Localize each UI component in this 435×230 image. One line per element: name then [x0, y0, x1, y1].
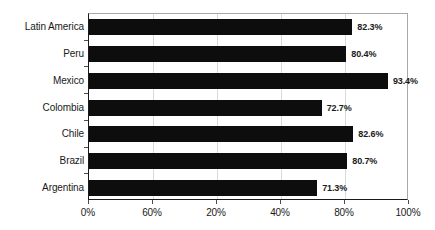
x-axis-label: 80% [334, 207, 354, 218]
bar-row: 80.4% [89, 46, 409, 62]
y-axis-label-peru: Peru [0, 48, 84, 59]
bar-brazil [89, 153, 347, 169]
x-axis-label: 0% [81, 207, 95, 218]
bar-value-label: 82.6% [358, 129, 383, 139]
bar-value-label: 93.4% [393, 76, 418, 86]
bar-colombia [89, 100, 322, 116]
y-axis-label-colombia: Colombia [0, 101, 84, 112]
x-axis-tick [344, 200, 345, 204]
y-axis-label-brazil: Brazil [0, 154, 84, 165]
x-axis-tick [152, 200, 153, 204]
x-axis-label: 40% [270, 207, 290, 218]
x-axis-label: 20% [206, 207, 226, 218]
bar-row: 72.7% [89, 100, 409, 116]
bar-row: 80.7% [89, 153, 409, 169]
y-axis-label-chile: Chile [0, 128, 84, 139]
bar-row: 93.4% [89, 73, 409, 89]
bar-argentina [89, 180, 317, 196]
bar-chart-figure: Latin AmericaPeruMexicoColombiaChileBraz… [0, 0, 435, 230]
x-axis-tick [280, 200, 281, 204]
y-axis-label-latin-america: Latin America [0, 21, 84, 32]
y-axis-label-mexico: Mexico [0, 74, 84, 85]
x-axis-label: 60% [142, 207, 162, 218]
bar-value-label: 80.7% [352, 156, 377, 166]
y-axis-label-argentina: Argentina [0, 181, 84, 192]
x-axis-label: 100% [395, 207, 420, 218]
bar-row: 71.3% [89, 180, 409, 196]
bar-value-label: 80.4% [351, 49, 376, 59]
bar-peru [89, 46, 346, 62]
bar-latin-america [89, 19, 352, 35]
bar-value-label: 82.3% [357, 22, 382, 32]
plot-area: 82.3%80.4%93.4%72.7%82.6%80.7%71.3% [88, 13, 408, 200]
x-axis: 0%60%20%40%80%100% [88, 200, 408, 230]
bar-row: 82.3% [89, 19, 409, 35]
bar-mexico [89, 73, 388, 89]
bar-value-label: 71.3% [322, 183, 347, 193]
bar-row: 82.6% [89, 126, 409, 142]
x-axis-tick [88, 200, 89, 204]
x-axis-tick [408, 200, 409, 204]
bar-value-label: 72.7% [327, 103, 352, 113]
x-axis-tick [216, 200, 217, 204]
y-axis-category-labels: Latin AmericaPeruMexicoColombiaChileBraz… [0, 13, 84, 200]
bar-chile [89, 126, 353, 142]
